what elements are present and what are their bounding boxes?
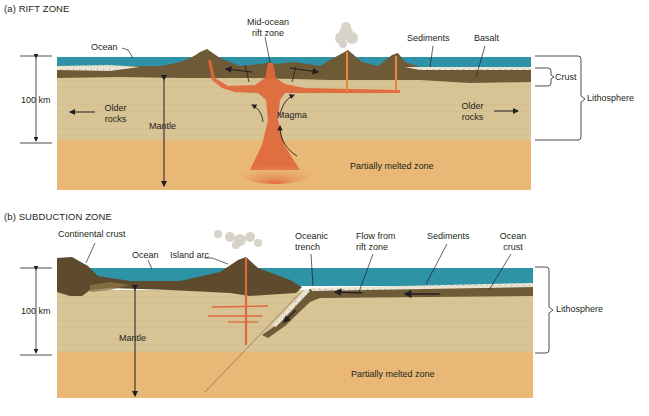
label-partially-melted-a: Partially melted zone	[350, 161, 434, 172]
eruption-cloud-a	[335, 22, 358, 48]
label-ocean-a: Ocean	[91, 42, 118, 53]
label-older-rocks-left: Older rocks	[98, 103, 133, 125]
panel-b-title: (b) SUBDUCTION ZONE	[4, 211, 112, 222]
label-lithosphere-a: Lithosphere	[587, 93, 634, 104]
label-older-rocks-right: Older rocks	[455, 101, 490, 123]
label-100km-a: 100 km	[21, 95, 51, 106]
label-sediments-a: Sediments	[407, 33, 450, 44]
label-sediments-b: Sediments	[427, 231, 470, 242]
label-ocean-b: Ocean	[132, 250, 159, 261]
label-oceanic-trench: Oceanic trench	[295, 231, 328, 253]
eruption-cloud-b	[214, 230, 262, 249]
label-continental-crust: Continental crust	[58, 229, 126, 240]
label-magma: Magma	[277, 110, 307, 121]
label-basalt: Basalt	[474, 33, 499, 44]
diagram-canvas	[0, 0, 649, 416]
label-island-arc: Island arc	[170, 250, 209, 261]
label-ocean-crust: Ocean crust	[497, 231, 529, 253]
label-flow-from-rift: Flow from rift zone	[356, 231, 396, 253]
partially-melted-zone-b	[57, 350, 533, 398]
label-lithosphere-b: Lithosphere	[556, 304, 603, 315]
label-crust: Crust	[555, 72, 577, 83]
label-mantle-b: Mantle	[119, 333, 146, 344]
subduction-zone-cross-section	[20, 230, 553, 398]
label-mantle-a: Mantle	[149, 121, 176, 132]
label-mid-ocean-rift: Mid-ocean rift zone	[238, 17, 298, 39]
label-100km-b: 100 km	[21, 306, 51, 317]
label-partially-melted-b: Partially melted zone	[351, 369, 435, 380]
